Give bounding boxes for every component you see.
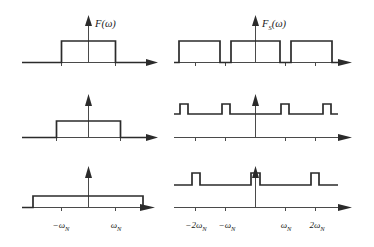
panel-baseband-narrow: F(ω) (22, 15, 158, 66)
x-tick-label-neg-2-omega-n: −2ωN (185, 220, 207, 232)
panel-baseband-wide: −ωN ωN (22, 166, 155, 232)
spectrum-figure: F(ω) FS(ω) (0, 0, 374, 247)
panel-baseband-medium (22, 94, 158, 141)
x-axis-arrowhead (338, 204, 352, 211)
axis-label-FS: FS(ω) (261, 18, 287, 31)
signal-trace (22, 121, 146, 138)
x-axis-arrowhead (146, 59, 158, 66)
panel-sampled-narrow-low-rate: FS(ω) (174, 15, 352, 66)
x-tick-label-neg-omega-n: −ωN (53, 220, 70, 232)
x-tick-label-omega-n: ωN (111, 220, 122, 232)
x-axis-arrowhead (338, 59, 352, 66)
axis-label-F-arg: (ω) (101, 18, 116, 30)
y-axis-arrowhead (252, 166, 259, 178)
y-axis-arrowhead (252, 94, 259, 106)
signal-trace (22, 41, 146, 63)
x-axis-arrowhead (338, 134, 352, 141)
y-axis-arrowhead (85, 15, 92, 26)
x-axis-arrowhead (146, 134, 158, 141)
axis-label-F: F(ω) (94, 18, 116, 30)
x-tick-label-neg-omega-n: −ωN (219, 220, 236, 232)
panel-sampled-medium-rate (174, 94, 352, 141)
x-tick-label-2-omega-n: 2ωN (309, 220, 325, 232)
y-axis-arrowhead (85, 94, 92, 106)
signal-trace (22, 196, 146, 208)
x-tick-label-omega-n: ωN (281, 220, 292, 232)
y-axis-arrowhead (85, 166, 92, 178)
y-axis-arrowhead (252, 15, 259, 26)
panel-sampled-high-rate: −2ωN −ωN ωN 2ωN (174, 166, 352, 232)
axis-label-FS-arg: (ω) (272, 18, 287, 30)
